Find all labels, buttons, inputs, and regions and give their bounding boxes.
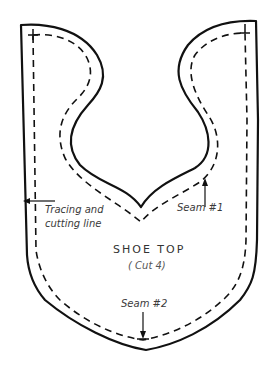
seam2-label: Seam #2 <box>121 297 167 310</box>
cutting-line-label-1: Tracing and <box>45 203 104 216</box>
seam-line <box>33 33 247 340</box>
seam1-arrowhead <box>202 178 208 186</box>
corner-mark-left <box>28 29 38 40</box>
seam1-label: Seam #1 <box>177 201 223 214</box>
seam2-arrowhead <box>140 331 146 339</box>
shoe-top-pattern <box>0 0 275 375</box>
cutting-line-label-2: cutting line <box>45 217 101 230</box>
pattern-subtitle: ( Cut 4) <box>128 260 166 271</box>
corner-mark-right <box>240 24 250 33</box>
pattern-title: SHOE TOP <box>113 243 185 256</box>
